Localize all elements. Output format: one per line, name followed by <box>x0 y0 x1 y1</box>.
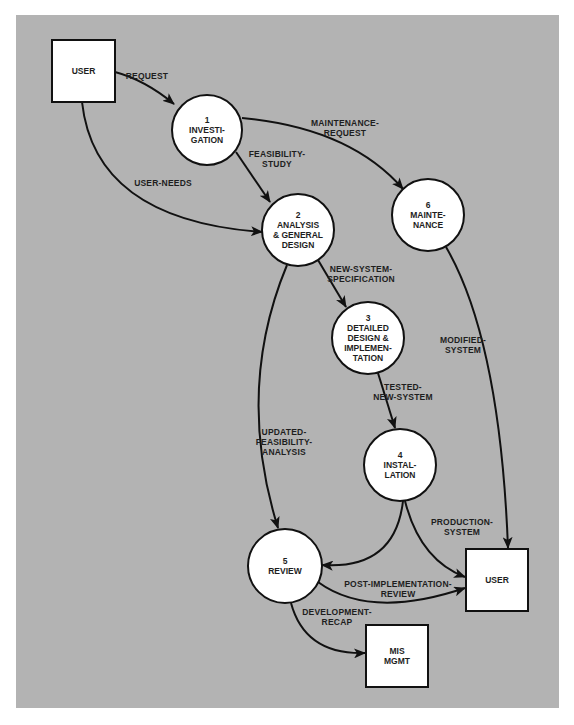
flow-label-production-system: PRODUCTION-SYSTEM <box>431 517 493 537</box>
data-flow-diagram: USERUSERMISMGMT 1INVESTI-GATION2ANALYSIS… <box>0 0 574 725</box>
flow-label-request: REQUEST <box>126 71 169 81</box>
process-6: 6MAINTE-NANCE <box>392 179 464 251</box>
flow-label-user-needs: USER-NEEDS <box>134 178 192 188</box>
flow-label-new-system-spec: NEW-SYSTEM-SPECIFICATION <box>327 264 395 284</box>
flow-installation-to-review <box>322 501 403 565</box>
flow-production-system <box>405 501 465 577</box>
process-2: 2ANALYSIS& GENERALDESIGN <box>262 194 334 266</box>
flow-label-feasibility-study: FEASIBILITY-STUDY <box>249 149 306 169</box>
flow-label-development-recap: DEVELOPMENT-RECAP <box>302 607 371 627</box>
flow-modified-system <box>446 247 508 548</box>
entity-user-top: USER <box>52 40 115 102</box>
process-4: 4INSTAL-LATION <box>364 429 436 501</box>
entity-label: USER <box>72 66 96 76</box>
process-5: 5REVIEW <box>248 529 322 603</box>
entity-user-bottom: USER <box>466 549 528 611</box>
process-1: 1INVESTI-GATION <box>172 95 242 165</box>
flow-label-updated-feasibility: UPDATED-FEASIBILITY-ANALYSIS <box>256 427 313 457</box>
flow-label-modified-system: MODIFIED-SYSTEM <box>440 335 486 355</box>
entity-mis-mgmt: MISMGMT <box>366 625 428 687</box>
entity-label: USER <box>485 575 509 585</box>
flow-updated-feasibility-analysis <box>259 265 287 528</box>
process-3: 3DETAILEDDESIGN &IMPLEMEN-TATION <box>332 302 404 374</box>
